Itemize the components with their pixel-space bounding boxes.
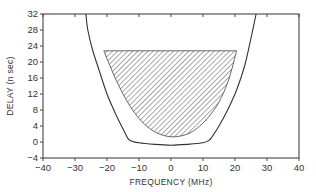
x-tick-label: −40 (35, 162, 51, 173)
hatched-region (104, 51, 237, 137)
y-tick-label: 0 (33, 136, 38, 147)
y-tick-label: 8 (33, 104, 38, 115)
y-tick-label: 16 (27, 72, 38, 83)
y-tick-label: 12 (27, 88, 38, 99)
y-axis-title: DELAY (n sec) (5, 56, 15, 115)
x-tick-label: −10 (131, 162, 147, 173)
y-tick-label: 28 (27, 24, 38, 35)
y-tick-label: 20 (27, 56, 38, 67)
x-axis-title: FREQUENCY (MHz) (129, 177, 212, 187)
x-tick-label: 40 (294, 162, 305, 173)
x-tick-label: 0 (168, 162, 173, 173)
y-axis-ticks: −4048121620242832 (27, 8, 43, 163)
y-tick-label: 4 (33, 120, 38, 131)
x-tick-label: 20 (230, 162, 241, 173)
y-tick-label: 32 (27, 8, 38, 19)
x-tick-label: −30 (67, 162, 83, 173)
x-tick-label: 30 (262, 162, 273, 173)
x-tick-label: 10 (198, 162, 209, 173)
x-tick-label: −20 (99, 162, 115, 173)
y-tick-label: 24 (27, 40, 38, 51)
delay-frequency-chart: −4048121620242832 −40−30−20−10010203040 … (0, 0, 316, 192)
